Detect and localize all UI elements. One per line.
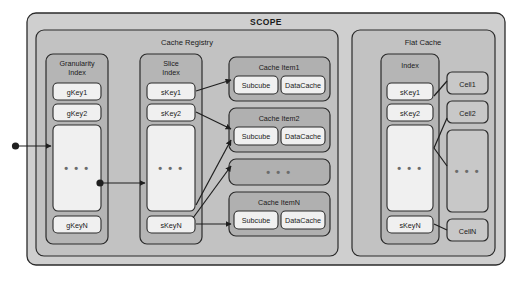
flat-skeyn-label: sKeyN bbox=[399, 221, 420, 230]
cache-itemn-title: Cache ItemN bbox=[258, 198, 300, 207]
skeyn-label: sKeyN bbox=[160, 221, 181, 230]
gkey2-label: gKey2 bbox=[67, 109, 87, 118]
gkeyn-label: gKeyN bbox=[66, 221, 88, 230]
flat-skey2-label: sKey2 bbox=[400, 109, 420, 118]
flat-skey1-label: sKey1 bbox=[400, 88, 420, 97]
cache-item1-datacache-label: DataCache bbox=[285, 81, 321, 90]
flat-index-ellipsis: • • • bbox=[397, 162, 423, 174]
cache-itemn-subcube-label: Subcube bbox=[242, 216, 270, 225]
cache-item1-title: Cache Item1 bbox=[259, 63, 300, 72]
celln-label: CellN bbox=[459, 227, 477, 236]
architecture-diagram: SCOPE Cache Registry Granularity Index g… bbox=[0, 0, 520, 284]
slice-index-title-line2: Index bbox=[162, 68, 180, 77]
cache-item-ellipsis: • • • bbox=[266, 166, 292, 178]
slice-index-title-line1: Slice bbox=[163, 59, 179, 68]
cache-item1-subcube-label: Subcube bbox=[242, 81, 270, 90]
cell1-label: Cell1 bbox=[459, 80, 475, 89]
cache-itemn-datacache-label: DataCache bbox=[285, 216, 321, 225]
cache-item2-datacache-label: DataCache bbox=[285, 132, 321, 141]
slice-ellipsis: • • • bbox=[158, 162, 184, 174]
granularity-index-title-line1: Granularity bbox=[59, 59, 95, 68]
cache-item2-subcube-label: Subcube bbox=[242, 132, 270, 141]
cells-ellipsis: • • • bbox=[455, 165, 481, 177]
skey2-label: sKey2 bbox=[161, 109, 181, 118]
skey1-label: sKey1 bbox=[161, 88, 181, 97]
scope-title: SCOPE bbox=[250, 17, 282, 27]
cell2-label: Cell2 bbox=[459, 109, 475, 118]
cache-item2-title: Cache Item2 bbox=[259, 114, 300, 123]
granularity-index-title-line2: Index bbox=[68, 68, 86, 77]
granularity-ellipsis: • • • bbox=[64, 162, 90, 174]
gkey1-label: gKey1 bbox=[67, 88, 87, 97]
flat-cache-label: Flat Cache bbox=[405, 38, 442, 47]
cache-registry-label: Cache Registry bbox=[161, 38, 213, 47]
diagram-canvas: SCOPE Cache Registry Granularity Index g… bbox=[0, 0, 520, 284]
flat-index-title: Index bbox=[401, 61, 419, 70]
